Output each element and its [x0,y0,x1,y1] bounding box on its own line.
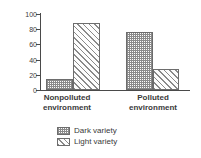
y-tick-label-60: 60 [29,41,37,48]
category-line-2: environment [22,103,112,113]
category-line-2: environment [108,103,198,113]
bar-dark-polluted [126,32,153,90]
y-tick-label-100: 100 [25,11,37,18]
y-tick-label-40: 40 [29,56,37,63]
plot-area: 100 80 60 40 20 0 [40,14,190,90]
bar-light-polluted [153,69,179,90]
legend-item-dark-variety: Dark variety [57,125,117,136]
legend-label-dark-variety: Dark variety [74,126,117,135]
moth-variety-bar-chart: % of Moth Variety 100 80 60 40 20 0 [0,0,201,158]
y-tick-label-80: 80 [29,26,37,33]
legend-swatch-hatch-icon [57,138,70,146]
bar-light-nonpolluted [73,23,100,90]
x-axis-line [40,90,190,91]
y-tick-label-20: 20 [29,71,37,78]
x-category-label-nonpolluted: Nonpolluted environment [22,93,112,112]
legend-label-light-variety: Light variety [74,137,117,146]
category-line-1: Polluted [108,93,198,103]
category-line-1: Nonpolluted [22,93,112,103]
chart-legend: Dark variety Light variety [57,125,117,147]
x-category-label-polluted: Polluted environment [108,93,198,112]
bar-dark-nonpolluted [46,79,73,90]
legend-swatch-checkered-icon [57,127,70,135]
legend-item-light-variety: Light variety [57,136,117,147]
